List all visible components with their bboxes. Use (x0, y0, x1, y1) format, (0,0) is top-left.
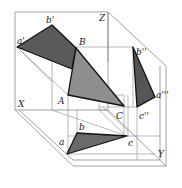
label-point-A: A (57, 96, 65, 106)
label-point-a-prime: a' (17, 36, 25, 46)
label-point-B: B (78, 37, 86, 47)
top-view-triangle (67, 133, 127, 154)
front-view-triangle (17, 25, 76, 69)
label-point-a-top: a (59, 137, 64, 147)
label-point-b-top: b (79, 122, 85, 132)
label-x-axis: X (17, 99, 25, 109)
label-point-C: C (116, 111, 123, 121)
label-point-b-prime: b' (46, 15, 54, 25)
space-triangle-abc (68, 48, 124, 106)
projection-diagram: Z X Y a' b' B A C b'' a''' c'' a b c (0, 0, 182, 188)
label-y-axis: Y (158, 149, 165, 159)
label-point-c-top: c (128, 138, 133, 148)
label-point-a-triple-prime: a''' (156, 90, 169, 100)
h-plane-edge-inner (19, 110, 73, 160)
label-point-c-double-prime: c'' (139, 111, 149, 121)
label-point-b-double-prime: b'' (136, 47, 147, 57)
label-z-axis: Z (98, 13, 106, 23)
